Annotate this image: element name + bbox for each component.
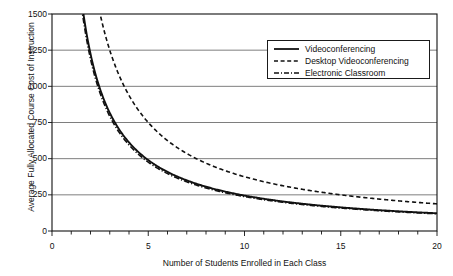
- legend-item-videoconferencing: Videoconferencing: [273, 43, 429, 55]
- series-line-1: [78, 0, 437, 204]
- y-tick-label: 1250: [13, 45, 47, 55]
- x-tick-label: 20: [422, 241, 452, 251]
- series-line-2: [68, 0, 437, 214]
- y-tick-label: 250: [13, 189, 47, 199]
- legend-label: Desktop Videoconferencing: [305, 56, 409, 66]
- data-series: [68, 0, 437, 214]
- series-line-0: [69, 0, 437, 213]
- y-tick-label: 1000: [13, 81, 47, 91]
- x-tick-label: 10: [230, 241, 260, 251]
- legend-label: Videoconferencing: [305, 44, 375, 54]
- y-tick-label: 1500: [13, 9, 47, 19]
- legend-label: Electronic Classroom: [305, 68, 385, 78]
- chart-legend: Videoconferencing Desktop Videoconferenc…: [267, 40, 430, 79]
- legend-swatch-solid-icon: [273, 44, 300, 54]
- chart-figure: Average Fully Allocated Course Cost of I…: [0, 0, 453, 276]
- x-axis-title: Number of Students Enrolled in Each Clas…: [52, 258, 437, 268]
- legend-swatch-dashed-icon: [273, 56, 300, 66]
- legend-swatch-dashdot-icon: [273, 68, 300, 78]
- x-tick-label: 15: [326, 241, 356, 251]
- legend-item-desktop-videoconferencing: Desktop Videoconferencing: [273, 55, 429, 67]
- x-tick-label: 5: [133, 241, 163, 251]
- y-tick-label: 500: [13, 153, 47, 163]
- y-tick-label: 0: [13, 226, 47, 236]
- y-tick-label: 750: [13, 117, 47, 127]
- legend-item-electronic-classroom: Electronic Classroom: [273, 67, 429, 79]
- x-tick-label: 0: [37, 241, 67, 251]
